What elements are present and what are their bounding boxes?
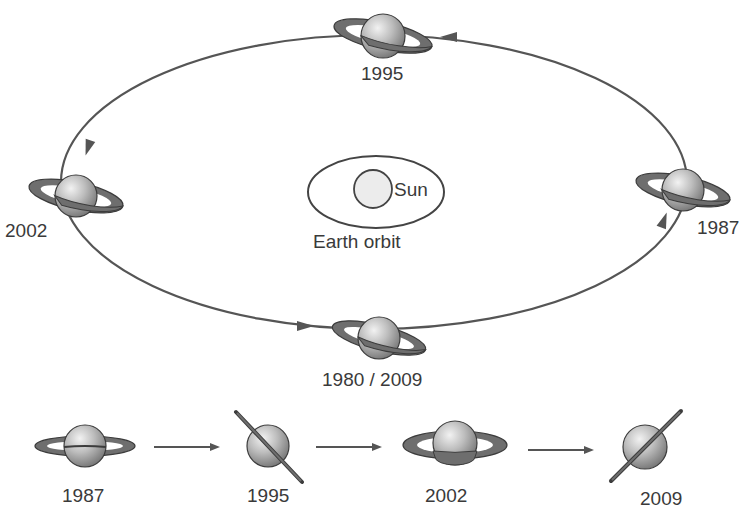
earth-orbit-label: Earth orbit <box>313 231 401 252</box>
sequence-label-1987: 1987 <box>62 485 104 506</box>
orbit-label-2002: 2002 <box>5 220 47 241</box>
saturn-orbit-diagram: Sun Earth orbit 1995 2002 <box>0 0 750 528</box>
orbit-label-1995: 1995 <box>361 63 403 84</box>
saturn-1987-orbit <box>633 166 733 213</box>
sequence-label-1995: 1995 <box>247 485 289 506</box>
saturn-1980-2009-orbit <box>329 314 428 362</box>
sun-label: Sun <box>394 179 428 200</box>
sequence-label-2002: 2002 <box>425 485 467 506</box>
orbit-arrow-bottom <box>297 321 314 331</box>
orbit-arrow-left <box>81 139 95 157</box>
saturn-2002-orbit <box>26 172 126 219</box>
ring-view-2009 <box>611 411 681 481</box>
saturn-1995-orbit <box>331 12 435 60</box>
orbit-label-1980-2009: 1980 / 2009 <box>322 369 422 390</box>
orbit-label-1987: 1987 <box>697 217 739 238</box>
sun-icon <box>354 170 392 208</box>
ring-view-2002 <box>403 421 507 465</box>
ring-view-1987 <box>35 425 135 467</box>
orbit-arrow-top <box>440 32 457 42</box>
ring-view-1995 <box>236 412 302 482</box>
orbit-arrow-right <box>657 211 672 229</box>
sequence-label-2009: 2009 <box>640 488 682 509</box>
